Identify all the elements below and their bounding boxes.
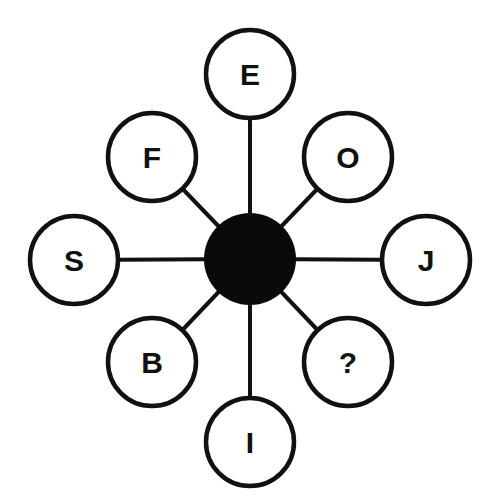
node-right: J [382,216,470,304]
node-label: E [240,58,260,91]
letter-wheel-diagram: EFOSJB?I [0,0,495,504]
node-label: J [418,244,435,277]
node-label: F [143,141,161,174]
node-top: E [206,30,294,118]
node-bottom-right: ? [304,318,392,406]
center-hub [204,213,296,305]
node-bottom-left: B [108,318,196,406]
node-label: B [141,346,163,379]
node-left: S [30,216,118,304]
node-label: S [64,244,84,277]
node-top-left: F [108,113,196,201]
node-top-right: O [304,113,392,201]
node-label: ? [339,346,357,379]
node-label: O [336,141,359,174]
node-bottom: I [206,398,294,486]
node-label: I [246,426,254,459]
